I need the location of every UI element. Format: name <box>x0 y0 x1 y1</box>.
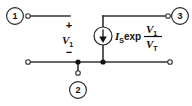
terminal-node-1-circle[interactable] <box>26 14 31 19</box>
terminal-node-2-circle[interactable] <box>76 71 81 76</box>
numerator-subscript: 1 <box>153 30 157 37</box>
terminal-node-3-circle[interactable] <box>166 14 171 19</box>
terminal-bottom-right-circle[interactable] <box>168 60 173 65</box>
current-source-expression: IS exp V1 VT <box>114 23 162 52</box>
minus-sign: − <box>66 46 72 58</box>
node-3[interactable]: 3 <box>172 8 189 25</box>
node-1[interactable]: 1 <box>7 8 24 25</box>
junction-dot-source <box>100 59 105 64</box>
denominator-subscript: T <box>153 45 158 52</box>
node-1-label: 1 <box>12 11 17 21</box>
junction-dot-node2 <box>75 59 80 64</box>
plus-sign: + <box>66 19 72 31</box>
node-2[interactable]: 2 <box>70 82 87 99</box>
dependent-current-source[interactable] <box>94 27 112 45</box>
saturation-current-symbol: IS <box>114 30 124 44</box>
terminal-bottom-left-circle[interactable] <box>26 60 31 65</box>
node-3-label: 3 <box>177 11 182 21</box>
fraction-denominator: VT <box>146 38 158 52</box>
node-2-label: 2 <box>75 85 80 95</box>
circuit-diagram-canvas: 1 3 2 + V1 − IS e <box>0 0 192 106</box>
exp-function-label: exp <box>124 31 141 42</box>
fraction-numerator: V1 <box>146 23 157 37</box>
